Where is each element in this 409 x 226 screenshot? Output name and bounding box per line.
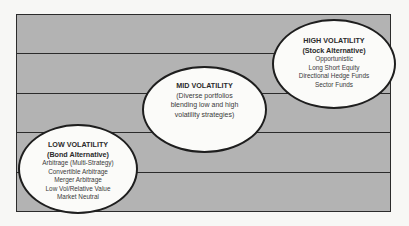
low-volatility-ellipse: LOW VOLATILITY (Bond Alternative) Arbitr… [18, 124, 138, 214]
strategy-item: Opportunistic [315, 55, 353, 64]
mid-volatility-description: (Diverse portfolios [176, 91, 232, 101]
strategy-item: Sector Funds [315, 81, 353, 90]
strategy-item: Merger Arbitrage [54, 176, 102, 185]
strategy-item: Market Neutral [57, 193, 99, 202]
strategy-item: Long Short Equity [309, 64, 360, 73]
mid-volatility-title: MID VOLATILITY [176, 81, 233, 91]
strategy-item: Low Vol/Relative Value [46, 185, 111, 194]
high-volatility-ellipse: HIGH VOLATILITY (Stock Alternative) Oppo… [272, 19, 396, 109]
mid-volatility-ellipse: MID VOLATILITY (Diverse portfolios blend… [142, 66, 267, 153]
strategy-item: Directional Hedge Funds [299, 72, 369, 81]
mid-volatility-description: blending low and high [171, 100, 239, 110]
high-volatility-subtitle: (Stock Alternative) [302, 46, 365, 56]
strategy-item: Convertible Arbitrage [48, 168, 108, 177]
volatility-diagram: LOW VOLATILITY (Bond Alternative) Arbitr… [0, 0, 409, 226]
low-volatility-title: LOW VOLATILITY [48, 140, 108, 150]
low-volatility-subtitle: (Bond Alternative) [47, 150, 109, 160]
mid-volatility-description: volatility strategies) [175, 110, 235, 120]
strategy-item: Arbitrage (Multi-Strategy) [42, 159, 113, 168]
high-volatility-title: HIGH VOLATILITY [303, 36, 364, 46]
